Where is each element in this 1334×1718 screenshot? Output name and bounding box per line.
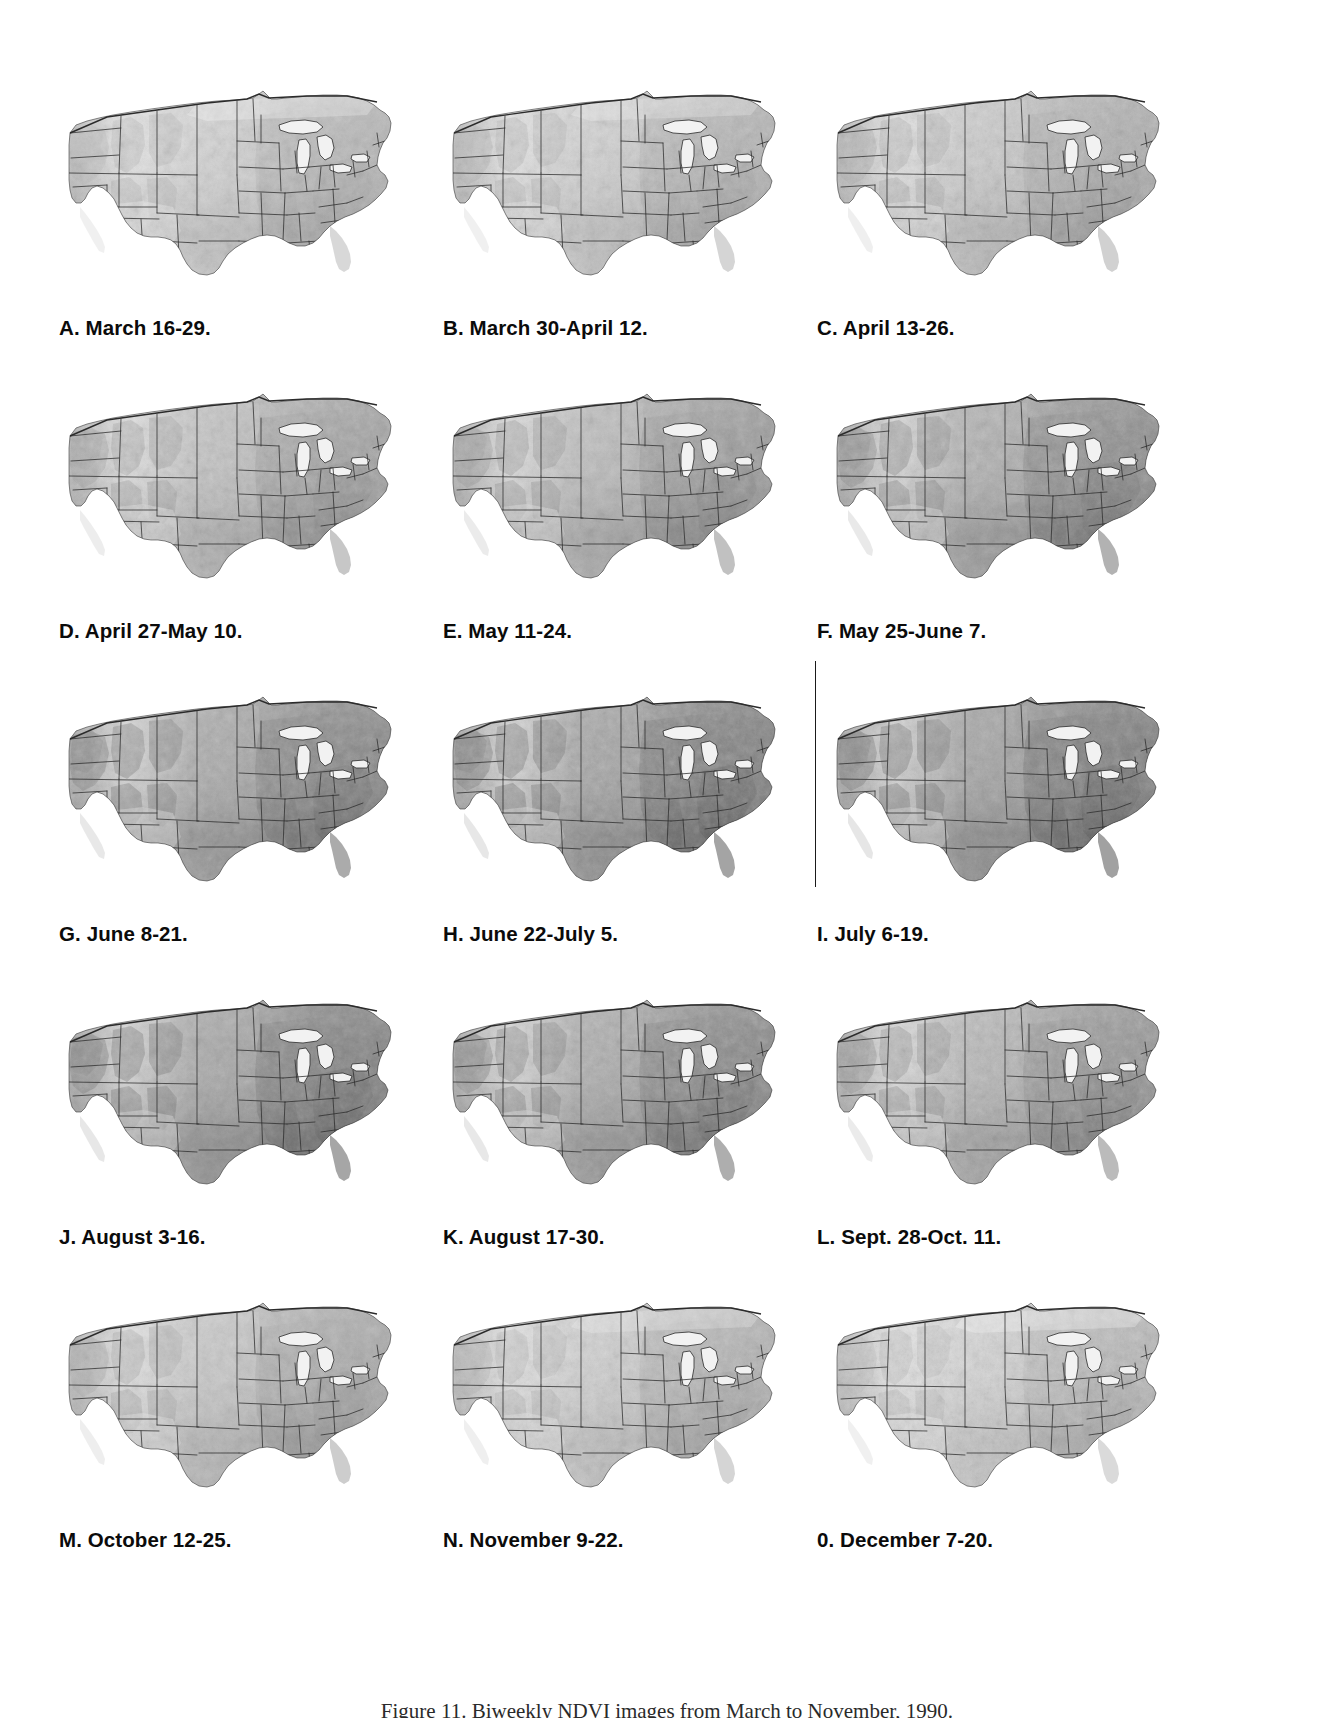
ndvi-panel-l: L. Sept. 28-Oct. 11.	[815, 964, 1170, 1267]
figure-sheet: A. March 16-29.B. March 30-April 12.C. A…	[0, 0, 1334, 1718]
panel-caption-g: G. June 8-21.	[59, 922, 188, 946]
ndvi-panel-j: J. August 3-16.	[47, 964, 402, 1267]
ndvi-panel-grid: A. March 16-29.B. March 30-April 12.C. A…	[47, 55, 1292, 1570]
figure-caption: Figure 11. Biweekly NDVI images from Mar…	[0, 1700, 1334, 1718]
panel-caption-n: N. November 9-22.	[443, 1528, 624, 1552]
ndvi-panel-o: 0. December 7-20.	[815, 1267, 1170, 1570]
ndvi-panel-k: K. August 17-30.	[431, 964, 786, 1267]
ndvi-map-image-c	[815, 55, 1170, 305]
panel-caption-b: B. March 30-April 12.	[443, 316, 648, 340]
ndvi-panel-d: D. April 27-May 10.	[47, 358, 402, 661]
ndvi-map-image-m	[47, 1267, 402, 1517]
ndvi-panel-b: B. March 30-April 12.	[431, 55, 786, 358]
panel-caption-h: H. June 22-July 5.	[443, 922, 618, 946]
ndvi-map-image-d	[47, 358, 402, 608]
ndvi-panel-m: M. October 12-25.	[47, 1267, 402, 1570]
panel-caption-j: J. August 3-16.	[59, 1225, 206, 1249]
ndvi-map-image-b	[431, 55, 786, 305]
ndvi-map-image-g	[47, 661, 402, 911]
ndvi-panel-i: I. July 6-19.	[815, 661, 1170, 964]
panel-caption-o: 0. December 7-20.	[817, 1528, 993, 1552]
panel-caption-c: C. April 13-26.	[817, 316, 954, 340]
ndvi-map-image-o	[815, 1267, 1170, 1517]
ndvi-panel-c: C. April 13-26.	[815, 55, 1170, 358]
ndvi-map-image-i	[815, 661, 1170, 911]
panel-caption-d: D. April 27-May 10.	[59, 619, 242, 643]
panel-caption-e: E. May 11-24.	[443, 619, 572, 643]
ndvi-map-image-j	[47, 964, 402, 1214]
ndvi-map-image-k	[431, 964, 786, 1214]
ndvi-panel-a: A. March 16-29.	[47, 55, 402, 358]
ndvi-panel-g: G. June 8-21.	[47, 661, 402, 964]
panel-caption-i: I. July 6-19.	[817, 922, 929, 946]
ndvi-map-image-n	[431, 1267, 786, 1517]
panel-caption-f: F. May 25-June 7.	[817, 619, 986, 643]
ndvi-panel-e: E. May 11-24.	[431, 358, 786, 661]
ndvi-panel-n: N. November 9-22.	[431, 1267, 786, 1570]
ndvi-map-image-h	[431, 661, 786, 911]
ndvi-map-image-e	[431, 358, 786, 608]
panel-caption-k: K. August 17-30.	[443, 1225, 604, 1249]
ndvi-map-image-a	[47, 55, 402, 305]
panel-caption-m: M. October 12-25.	[59, 1528, 232, 1552]
ndvi-map-image-l	[815, 964, 1170, 1214]
ndvi-map-image-f	[815, 358, 1170, 608]
panel-caption-l: L. Sept. 28-Oct. 11.	[817, 1225, 1001, 1249]
panel-caption-a: A. March 16-29.	[59, 316, 211, 340]
ndvi-panel-f: F. May 25-June 7.	[815, 358, 1170, 661]
ndvi-panel-h: H. June 22-July 5.	[431, 661, 786, 964]
